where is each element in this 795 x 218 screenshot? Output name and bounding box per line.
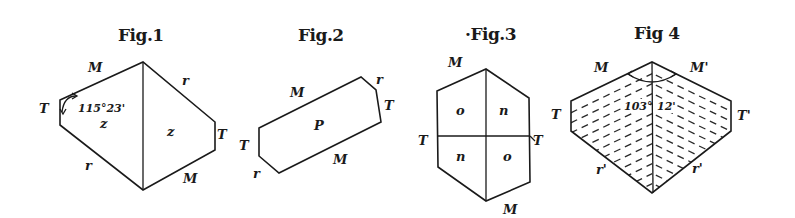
figure-4-label-m-right: M' <box>689 60 708 75</box>
figure-3-face-bottom-left: n <box>456 149 465 164</box>
figure-3-face-top-left: o <box>456 103 465 118</box>
figure-1-label-m-bottom: M <box>182 171 198 186</box>
figure-3-label-t-right: T <box>533 133 544 148</box>
figure-1-angle-label: 115°23' <box>78 102 125 115</box>
figure-1-label-t-right: T <box>217 127 228 142</box>
figure-3: ·Fig.3 M T T M o n n o <box>418 24 544 217</box>
figure-1-label-m-top: M <box>87 60 103 75</box>
figure-3-face-top-right: n <box>499 103 508 118</box>
figure-4-angle-minutes: 12' <box>657 100 676 113</box>
figure-2-label-t-right: T <box>384 98 395 113</box>
figure-3-outline <box>437 69 530 201</box>
figure-2-face-p: P <box>313 118 325 133</box>
figure-2-label-m-bottom: M <box>332 152 348 167</box>
figure-3-label-m-top: M <box>447 55 463 70</box>
figure-3-label-m-bottom: M <box>502 202 518 217</box>
figure-4: Fig 4 <box>551 23 751 218</box>
figure-2-label-r-bottom-left: r <box>253 166 261 181</box>
figure-2: Fig.2 M r T T r M P <box>239 25 395 181</box>
figure-4-title: Fig 4 <box>634 23 680 43</box>
figure-4-hatching-left <box>560 70 660 218</box>
figure-3-label-t-left: T <box>418 133 429 148</box>
figure-3-face-bottom-right: o <box>503 149 512 164</box>
figure-1-label-t-left: T <box>39 101 50 116</box>
figure-1-label-r-bottom-left: r <box>85 158 93 173</box>
figure-2-label-t-left: T <box>239 138 250 153</box>
figure-2-title: Fig.2 <box>298 25 344 45</box>
figure-2-label-r-top-right: r <box>376 72 384 87</box>
figure-1-label-r-top-right: r <box>182 73 190 88</box>
figure-2-label-m-top: M <box>289 85 305 100</box>
figure-1-title: Fig.1 <box>118 25 164 45</box>
figure-1-face-left: z <box>99 116 108 131</box>
figure-4-label-r-right: r' <box>692 161 703 176</box>
figure-4-label-m-left: M <box>593 60 609 75</box>
figure-4-arrow-right-icon <box>671 71 676 77</box>
figure-4-label-r-left: r' <box>596 162 607 177</box>
figure-1: Fig.1 M r T T r M z z 115°23' <box>39 25 228 190</box>
figure-4-label-t-left: T <box>551 107 562 122</box>
figure-4-angle-degrees: 103° <box>624 100 652 113</box>
figure-1-face-right: z <box>166 124 175 139</box>
figure-4-hatching-right <box>645 70 745 218</box>
figure-3-title: ·Fig.3 <box>465 24 516 44</box>
crystal-figures-plate: Fig.1 M r T T r M z z 115°23' Fig.2 M r … <box>0 0 795 218</box>
figure-4-label-t-right: T' <box>737 108 751 123</box>
